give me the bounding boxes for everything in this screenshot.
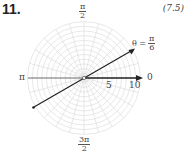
- pole: [82, 76, 85, 79]
- theta-equation-lhs: θ =: [132, 39, 146, 48]
- tick-label-10: 10: [129, 80, 140, 90]
- theta-line-endpoint-dot: [32, 106, 35, 109]
- label-pi: π: [19, 72, 25, 82]
- label-3pi-over-2: 3π 2: [78, 136, 90, 153]
- theta-equation-fraction: π 6: [148, 35, 155, 52]
- polar-graph: [0, 0, 187, 160]
- tick-label-5: 5: [106, 80, 112, 90]
- theta-equation: θ = π 6: [132, 35, 155, 52]
- label-pi-over-2: π 2: [79, 3, 86, 20]
- label-zero: 0: [147, 72, 153, 82]
